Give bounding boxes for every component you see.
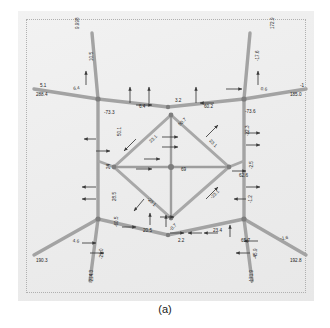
annotation-label: 5.1: [40, 84, 46, 89]
annotation-label: 2.2: [178, 239, 184, 244]
annotation-label: -60.5: [115, 217, 120, 227]
annotation-label: 185.0: [290, 93, 302, 98]
annotation-label: -45.9: [254, 249, 259, 259]
annotation-label: 190.3: [36, 259, 48, 264]
annotation-label: 23.4: [213, 229, 222, 234]
annotation-label: 28.5: [113, 192, 118, 201]
annotation-label: -1.2: [249, 195, 254, 203]
annotation-label: -22.3: [246, 126, 251, 136]
annotation-label: 69: [181, 168, 186, 173]
figure-panel: 9.998172.910.5-17.65.1-1288.4185.06.40.6…: [18, 11, 314, 301]
cut-off-text-strip: 1 11 11 1 1111111 111111111 11 1111: [0, 0, 330, 11]
annotation-label: -171.9: [250, 270, 255, 283]
annotation-label: -1: [300, 84, 304, 89]
annotation-label: 60.2: [204, 105, 213, 110]
annotation-label: -73.3: [104, 111, 114, 116]
cut-off-text-line: 1 11 11 1 1111111 111111111 11 1111: [6, 0, 180, 2]
annotation-label: 288.4: [36, 93, 48, 98]
figure-caption: (a): [0, 303, 330, 315]
annotation-label: 4.6: [72, 239, 79, 244]
annotation-label: 20.5: [143, 229, 152, 234]
annotation-label: 62.6: [239, 174, 248, 179]
annotation-label: 65.7: [241, 239, 250, 244]
annotation-label: 50.1: [118, 127, 123, 136]
annotation-label: 6.4: [73, 86, 80, 91]
annotation-label: -21.0: [100, 249, 105, 259]
annotation-label: 0.6: [260, 87, 267, 92]
structural-frame-diagram: [18, 11, 314, 301]
annotation-label: 24: [107, 164, 112, 169]
annotation-label: -214.3: [90, 270, 95, 283]
annotation-label: -2.5: [250, 161, 255, 169]
annotation-label: 9.998: [76, 18, 81, 30]
annotation-label: 192.8: [290, 259, 302, 264]
annotation-label: 6.4: [139, 105, 145, 110]
annotation-label: 172.9: [271, 18, 276, 30]
annotation-label: -73.6: [245, 110, 255, 115]
annotation-label: 10.5: [90, 52, 95, 61]
annotation-label: -17.6: [256, 51, 261, 61]
annotation-label: 3.2: [175, 99, 181, 104]
